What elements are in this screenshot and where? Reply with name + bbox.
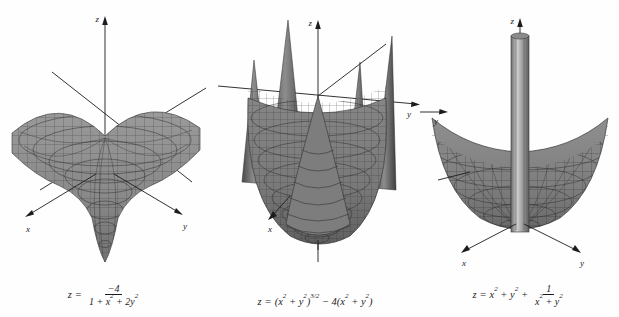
y-axis-label-far-3: y <box>433 116 438 126</box>
surface-plot-panel-2: z x y z = (x2 + y2)3/2 − 4(x2 + y2) <box>210 0 420 317</box>
y-axis-label-1: y <box>182 221 187 231</box>
equation-caption-3: z = x2 + y2 + 1 x2 + y2 <box>420 283 619 307</box>
equation-1-equals: = <box>75 290 82 301</box>
y-axis-arrow-3 <box>572 245 581 253</box>
equation-1-lhs: z <box>68 290 72 301</box>
z-axis-label-1: z <box>94 14 99 24</box>
y-axis-arrow-far-3 <box>439 109 448 115</box>
plot-area-2: z x y <box>210 0 420 269</box>
y-axis-line-3 <box>524 224 576 250</box>
x-axis-arrow-1 <box>25 210 34 217</box>
x-axis-label-1: x <box>25 224 30 234</box>
x-axis-label-2: x <box>267 224 272 234</box>
equation-2-body: (x2 + y2)3/2 − 4(x2 + y2) <box>275 297 373 308</box>
x-axis-arrow-3 <box>461 245 470 253</box>
equation-1-denominator: 1 + x2 + 2y2 <box>86 295 141 307</box>
equation-3-fraction: 1 x2 + y2 <box>532 283 566 307</box>
equation-3-numerator: 1 <box>543 283 554 296</box>
y-axis-arrow-2 <box>411 102 420 108</box>
equation-caption-2: z = (x2 + y2)3/2 − 4(x2 + y2) <box>210 297 420 308</box>
axis-aux-2 <box>318 44 386 96</box>
z-axis-arrow-1 <box>102 16 108 25</box>
figure-sheet: z x y z = −4 1 + x2 + 2y2 <box>0 0 619 317</box>
equation-3-lead: x2 + y2 + <box>490 290 528 301</box>
surface-plot-panel-3: z x y y z = x2 + y2 + 1 x2 + y2 <box>420 0 619 317</box>
x-axis-line-3 <box>466 224 516 250</box>
equation-3-lhs: z <box>472 290 476 301</box>
equation-caption-1: z = −4 1 + x2 + 2y2 <box>0 283 210 307</box>
z-axis-label-2: z <box>307 18 312 28</box>
plot-area-3: z x y y <box>420 0 619 269</box>
equation-3-equals: = <box>479 290 486 301</box>
equation-3-denominator: x2 + y2 <box>532 295 566 307</box>
y-axis-label-3: y <box>579 258 584 268</box>
x-axis-label-3: x <box>461 258 466 268</box>
surface-plot-1-graphic: z x y <box>0 0 210 269</box>
equation-1-fraction: −4 1 + x2 + 2y2 <box>86 283 141 307</box>
surface-plot-3-graphic: z x y y <box>420 0 619 269</box>
z-axis-arrow-2 <box>315 20 321 29</box>
equation-2-lhs: z <box>257 297 261 308</box>
z-axis-label-3: z <box>509 16 514 26</box>
z-axis-arrow-3 <box>517 18 523 27</box>
central-column-3 <box>511 33 529 232</box>
equation-2-equals: = <box>265 297 272 308</box>
y-axis-label-2: y <box>406 109 411 119</box>
y-axis-arrow-1 <box>174 208 183 215</box>
surface-plot-2-graphic: z x y <box>210 0 420 269</box>
plot-area-1: z x y <box>0 0 210 269</box>
surface-bowl-2 <box>230 80 410 260</box>
surface-plot-panel-1: z x y z = −4 1 + x2 + 2y2 <box>0 0 210 317</box>
